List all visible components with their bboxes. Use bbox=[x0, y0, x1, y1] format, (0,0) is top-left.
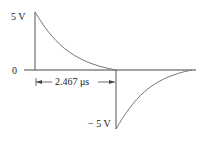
negative-peak-label: − 5 V bbox=[88, 118, 111, 129]
duration-label: 2.467 μs bbox=[55, 76, 89, 87]
negative-decay-curve bbox=[116, 70, 192, 129]
zero-label: 0 bbox=[12, 65, 17, 76]
positive-peak-label: 5 V bbox=[11, 11, 26, 22]
arrow-right-icon bbox=[109, 80, 115, 84]
arrow-left-icon bbox=[36, 80, 42, 84]
positive-decay-curve bbox=[35, 12, 116, 70]
pulse-waveform-diagram: 2.467 μs 5 V 0 − 5 V bbox=[0, 0, 200, 142]
